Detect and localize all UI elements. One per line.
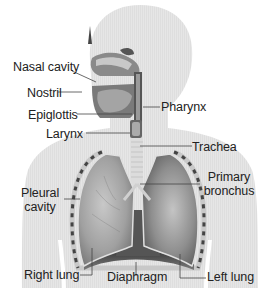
label-pharynx: Pharynx <box>161 100 206 114</box>
trachea-shape <box>131 138 143 186</box>
label-nostril: Nostril <box>27 86 62 100</box>
label-pleural-cavity-line1: Pleural <box>18 186 62 200</box>
label-trachea: Trachea <box>192 140 237 154</box>
label-epiglottis: Epiglottis <box>28 108 78 122</box>
label-left-lung: Left lung <box>207 270 254 284</box>
label-primary-bronchus-line2: bronchus <box>198 184 260 198</box>
label-primary-bronchus-line1: Primary <box>198 170 260 184</box>
label-nasal-cavity: Nasal cavity <box>13 60 79 74</box>
label-diaphragm: Diaphragm <box>107 270 167 284</box>
label-pleural-cavity-line2: cavity <box>18 200 62 214</box>
respiratory-diagram: Nasal cavity Nostril Epiglottis Larynx P… <box>0 0 267 298</box>
label-right-lung: Right lung <box>24 268 79 282</box>
label-primary-bronchus: Primary bronchus <box>198 170 260 198</box>
label-pleural-cavity: Pleural cavity <box>18 186 62 214</box>
label-larynx: Larynx <box>46 127 83 141</box>
